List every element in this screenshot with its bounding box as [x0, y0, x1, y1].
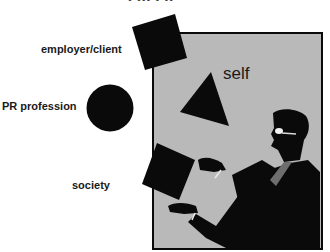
juggler-hand-upper	[198, 158, 226, 172]
self-label: self	[223, 64, 249, 84]
juggler-hand-lower	[168, 203, 198, 214]
juggler-figure	[168, 109, 320, 248]
juggler-head	[271, 109, 309, 162]
employer-client-label: employer/client	[41, 43, 122, 55]
society-label: society	[72, 179, 110, 191]
pr-profession-circle	[87, 85, 134, 132]
society-square	[142, 143, 195, 200]
self-triangle	[180, 72, 229, 126]
diagram-graphics	[0, 0, 330, 252]
employer-client-square	[132, 14, 187, 70]
glasses-icon	[275, 128, 283, 134]
pr-profession-label: PR profession	[2, 100, 77, 112]
